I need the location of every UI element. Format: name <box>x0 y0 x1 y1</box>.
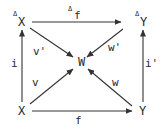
edge-label: f <box>74 9 81 22</box>
edge-label: i <box>11 57 18 70</box>
delta-superscript: Δ <box>68 5 73 13</box>
node-y: Y <box>139 104 147 118</box>
arrow-i-prime: i' <box>143 30 158 102</box>
arrow-f: f <box>32 111 132 127</box>
node-delta-y: Δ Y <box>135 10 148 29</box>
arrow-delta-f: Δ f <box>32 5 121 22</box>
edge-label: f <box>75 114 82 127</box>
node-label: Y <box>139 104 147 118</box>
node-delta-x: Δ X <box>13 10 26 29</box>
arrow-w: w <box>88 69 132 106</box>
arrow-i: i <box>11 30 22 102</box>
commutative-diagram: Δ X Δ Y X Y W Δ f f i i' v' w' <box>0 0 166 133</box>
node-label: W <box>78 55 86 69</box>
arrow-w-prime: w' <box>87 29 123 57</box>
node-label: X <box>18 104 26 118</box>
arrow-v-prime: v' <box>30 28 73 58</box>
edge-label: v' <box>33 45 46 58</box>
arrow-line <box>88 69 132 106</box>
edge-label: i' <box>145 57 158 70</box>
node-w: W <box>78 55 86 69</box>
edge-label: w <box>112 76 119 89</box>
node-x: X <box>18 104 26 118</box>
edge-label: v <box>32 76 39 89</box>
arrow-v: v <box>30 69 73 104</box>
node-label: X <box>18 15 26 29</box>
edge-label: w' <box>108 41 121 54</box>
node-label: Y <box>140 15 148 29</box>
